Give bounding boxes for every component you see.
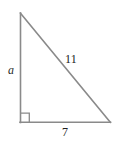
triangle-graphic: [0, 0, 119, 144]
right-triangle-figure: a 11 7: [0, 0, 119, 144]
side-label-hypotenuse: 11: [65, 53, 77, 65]
side-label-vertical-leg: a: [8, 64, 14, 76]
triangle-side-hypotenuse: [20, 13, 110, 122]
right-angle-square-icon: [21, 113, 30, 122]
side-label-horizontal-leg: 7: [62, 126, 68, 138]
